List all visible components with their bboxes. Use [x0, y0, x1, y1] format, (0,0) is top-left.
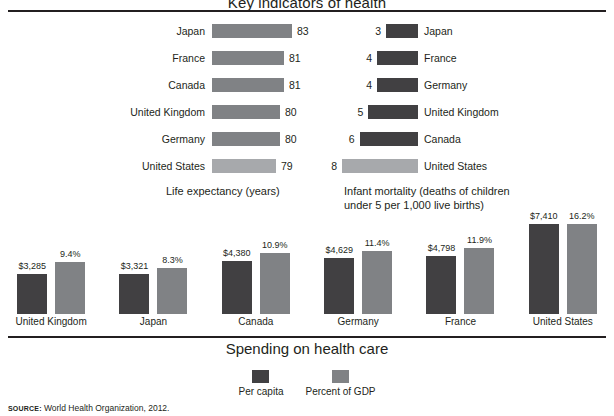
life-expectancy-value: 79	[276, 161, 293, 172]
life-expectancy-bar	[212, 51, 284, 65]
spending-bar-pair: $4,62911.4%	[307, 200, 409, 314]
source-label: SOURCE:	[8, 405, 42, 412]
life-expectancy-row: United States79	[128, 153, 318, 179]
spending-percent-gdp-bar	[157, 268, 187, 314]
spending-divider	[8, 336, 606, 338]
infant-mortality-country-label: Canada	[418, 134, 461, 145]
spending-percent-gdp-label: 11.9%	[467, 235, 492, 246]
spending-per-capita-column: $3,321	[119, 261, 149, 314]
life-expectancy-value: 81	[284, 80, 301, 91]
infant-mortality-value-wrap: 5	[318, 107, 368, 118]
spending-country-label: United States	[512, 316, 614, 327]
life-expectancy-country-label: Japan	[128, 26, 212, 37]
spending-per-capita-bar	[17, 274, 47, 314]
spending-per-capita-bar	[529, 224, 559, 314]
spending-percent-gdp-column: 11.9%	[464, 235, 494, 314]
spending-per-capita-column: $4,798	[426, 243, 456, 314]
spending-percent-gdp-column: 9.4%	[55, 249, 85, 314]
spending-country-labels: United KingdomJapanCanadaGermanyFranceUn…	[0, 316, 614, 330]
spending-per-capita-column: $3,285	[17, 261, 47, 314]
spending-per-capita-bar	[324, 258, 354, 314]
life-expectancy-bar	[212, 78, 284, 92]
infant-mortality-value-wrap: 6	[318, 134, 360, 145]
infant-mortality-value-wrap: 3	[318, 26, 386, 37]
infant-mortality-value-wrap: 8	[318, 161, 342, 172]
legend-item: Per capita	[238, 370, 283, 397]
infant-mortality-value: 8	[331, 161, 342, 172]
source-note: SOURCE: World Health Organization, 2012.	[8, 403, 169, 413]
infant-mortality-value: 6	[349, 134, 360, 145]
spending-per-capita-column: $4,380	[222, 248, 252, 314]
life-expectancy-bar	[212, 24, 292, 38]
spending-group: $4,62911.4%	[307, 200, 409, 314]
life-expectancy-row: Canada81	[128, 72, 318, 98]
infant-mortality-bar	[377, 78, 418, 92]
spending-per-capita-column: $7,410	[529, 211, 559, 314]
life-expectancy-bar	[212, 159, 276, 173]
life-expectancy-bar	[212, 105, 280, 119]
legend-swatch-capita	[252, 370, 269, 383]
life-expectancy-country-label: United Kingdom	[128, 107, 212, 118]
spending-group: $3,3218.3%	[102, 200, 204, 314]
life-expectancy-value: 80	[280, 107, 297, 118]
legend-label: Percent of GDP	[306, 386, 376, 397]
infant-mortality-bar	[368, 105, 418, 119]
life-expectancy-country-label: Canada	[128, 80, 212, 91]
infant-mortality-value-wrap: 4	[318, 80, 377, 91]
spending-percent-gdp-bar	[567, 224, 597, 314]
spending-country-label: France	[409, 316, 511, 327]
spending-country-label: Japan	[102, 316, 204, 327]
life-expectancy-row: Japan83	[128, 18, 318, 44]
life-expectancy-country-label: France	[128, 53, 212, 64]
spending-percent-gdp-label: 16.2%	[569, 211, 595, 222]
life-expectancy-value: 83	[292, 26, 309, 37]
spending-percent-gdp-bar	[260, 253, 290, 314]
spending-percent-gdp-bar	[464, 248, 494, 314]
spending-per-capita-bar	[222, 261, 252, 314]
spending-percent-gdp-column: 10.9%	[260, 240, 290, 314]
infant-mortality-value: 4	[366, 53, 377, 64]
life-expectancy-row: Germany80	[128, 126, 318, 152]
spending-percent-gdp-bar	[362, 251, 392, 314]
spending-per-capita-bar	[426, 256, 456, 314]
infant-mortality-row: 3Japan	[318, 18, 518, 44]
infant-mortality-row: 5United Kingdom	[318, 99, 518, 125]
spending-group: $4,38010.9%	[205, 200, 307, 314]
legend-swatch-gdp	[332, 370, 349, 383]
life-expectancy-caption: Life expectancy (years)	[166, 185, 331, 199]
infant-mortality-value: 5	[358, 107, 369, 118]
life-expectancy-bar	[212, 132, 280, 146]
infant-mortality-chart: 3Japan4France4Germany5United Kingdom6Can…	[318, 18, 518, 180]
spending-bar-pair: $3,2859.4%	[0, 200, 102, 314]
spending-per-capita-label: $4,380	[223, 248, 251, 259]
spending-title: Spending on health care	[0, 340, 614, 357]
spending-percent-gdp-label: 9.4%	[60, 249, 81, 260]
life-expectancy-country-label: United States	[128, 161, 212, 172]
spending-percent-gdp-label: 11.4%	[365, 238, 390, 249]
title-divider	[8, 10, 606, 12]
infant-mortality-country-label: United States	[418, 161, 487, 172]
spending-country-label: Germany	[307, 316, 409, 327]
spending-percent-gdp-column: 16.2%	[567, 211, 597, 314]
infant-mortality-bar	[360, 132, 418, 146]
infant-mortality-value-wrap: 4	[318, 53, 377, 64]
spending-percent-gdp-bar	[55, 262, 85, 314]
infant-mortality-country-label: Germany	[418, 80, 467, 91]
life-expectancy-row: United Kingdom80	[128, 99, 318, 125]
spending-per-capita-label: $4,629	[325, 245, 353, 256]
spending-country-label: United Kingdom	[0, 316, 102, 327]
infant-mortality-bar	[377, 51, 418, 65]
spending-group: $3,2859.4%	[0, 200, 102, 314]
infant-mortality-bar	[342, 159, 418, 173]
spending-percent-gdp-label: 8.3%	[162, 255, 183, 266]
infant-mortality-value: 3	[375, 26, 386, 37]
spending-group: $7,41016.2%	[512, 200, 614, 314]
infant-mortality-country-label: United Kingdom	[418, 107, 499, 118]
infant-mortality-row: 4France	[318, 45, 518, 71]
spending-bar-pair: $4,79811.9%	[409, 200, 511, 314]
spending-legend: Per capitaPercent of GDP	[0, 370, 614, 397]
spending-percent-gdp-column: 11.4%	[362, 238, 392, 314]
life-expectancy-country-label: Germany	[128, 134, 212, 145]
infant-mortality-row: 6Canada	[318, 126, 518, 152]
spending-chart: $3,2859.4%$3,3218.3%$4,38010.9%$4,62911.…	[0, 200, 614, 314]
